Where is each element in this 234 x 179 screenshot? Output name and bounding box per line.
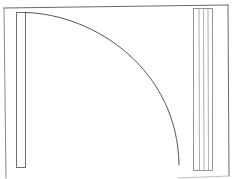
- door-swing-arc: [25, 13, 179, 166]
- sliding-panel-stack: [194, 9, 213, 171]
- door-plan-diagram: [0, 0, 234, 179]
- door-leaf-left: [17, 13, 26, 168]
- outer-wall-frame: [4, 5, 229, 178]
